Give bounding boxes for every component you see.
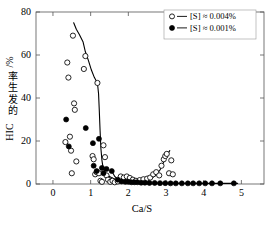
data-point (168, 181, 173, 186)
x-tick-label: 4 (201, 187, 206, 198)
chart-legend: [S] ≈ 0.004%[S] ≈ 0.001% (164, 10, 256, 39)
data-point (90, 141, 95, 146)
data-point (66, 144, 71, 149)
data-point (231, 181, 236, 186)
data-point (185, 181, 190, 186)
x-tick-label: 3 (164, 187, 169, 198)
svg-text:Ca/S: Ca/S (132, 203, 153, 214)
data-point (69, 171, 74, 176)
y-tick-label: 80 (21, 6, 31, 17)
data-point (94, 169, 99, 174)
data-point (147, 180, 152, 185)
chart-figure: 012345 020406080 Ca/S HIC 的发生率/% [S] ≈ 0… (0, 0, 272, 225)
data-point (83, 53, 88, 58)
x-tick-label: 5 (239, 187, 244, 198)
data-point (63, 139, 68, 144)
y-tick-label: 40 (21, 92, 31, 103)
data-point (152, 180, 157, 185)
legend-label: [S] ≈ 0.001% (190, 23, 236, 33)
data-point (102, 155, 107, 160)
y-tick-label: 60 (21, 49, 31, 60)
data-point (83, 126, 88, 131)
data-point (157, 181, 162, 186)
y-axis-title-char: 的 (8, 104, 18, 116)
data-point (104, 166, 109, 171)
y-axis-tick-labels: 020406080 (21, 6, 31, 189)
data-point (65, 60, 70, 65)
data-point (173, 181, 178, 186)
data-point (64, 117, 69, 122)
x-axis-tick-labels: 012345 (50, 187, 243, 198)
data-point (74, 159, 79, 164)
data-point (67, 134, 72, 139)
data-point (66, 75, 71, 80)
y-axis-title: HIC 的发生率/% (4, 56, 18, 140)
data-point (203, 181, 208, 186)
data-point (70, 33, 75, 38)
data-point (169, 158, 174, 163)
data-point (179, 181, 184, 186)
data-point (99, 179, 104, 184)
legend-marker-open-circle (170, 14, 175, 19)
data-point (71, 101, 76, 106)
data-point (72, 107, 77, 112)
data-point (164, 151, 169, 156)
data-point (91, 157, 96, 162)
y-axis-title-char: 率 (8, 70, 18, 82)
legend-marker-filled-circle (170, 25, 175, 30)
data-point (163, 181, 168, 186)
y-tick-label: 0 (26, 178, 31, 189)
x-tick-label: 1 (88, 187, 93, 198)
data-point (159, 163, 164, 168)
data-point (157, 173, 162, 178)
data-point (95, 80, 100, 85)
y-axis-title-char: 生 (8, 81, 18, 93)
data-point (91, 163, 96, 168)
x-tick-label: 0 (50, 187, 55, 198)
data-point (191, 181, 196, 186)
data-point (170, 172, 175, 177)
scatter-chart: 012345 020406080 Ca/S HIC 的发生率/% [S] ≈ 0… (0, 0, 272, 225)
data-point (96, 136, 101, 141)
data-point (101, 143, 106, 148)
y-axis-title-unit: /% (4, 56, 15, 67)
y-axis-title-char: 发 (8, 93, 18, 105)
x-axis-title: Ca/S (132, 203, 153, 214)
data-point (109, 169, 114, 174)
data-point (209, 181, 214, 186)
data-point (197, 181, 202, 186)
y-tick-label: 20 (21, 135, 31, 146)
x-tick-label: 2 (126, 187, 131, 198)
y-axis-title-latin: HIC (4, 123, 15, 141)
data-point (99, 165, 104, 170)
legend-label: [S] ≈ 0.004% (190, 11, 236, 21)
data-point (218, 181, 223, 186)
data-point (81, 66, 86, 71)
